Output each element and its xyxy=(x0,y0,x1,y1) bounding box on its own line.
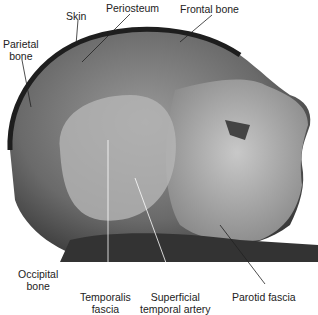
label-occipital-bone: Occipital bone xyxy=(18,268,58,292)
label-skin: Skin xyxy=(66,10,86,22)
label-superficial-temporal-artery: Superficial temporal artery xyxy=(140,291,211,315)
label-temporalis-fascia: Temporalis fascia xyxy=(80,291,131,315)
label-frontal-bone: Frontal bone xyxy=(180,3,239,15)
label-periosteum: Periosteum xyxy=(106,2,159,14)
label-parotid-fascia: Parotid fascia xyxy=(232,291,296,303)
label-parietal-bone: Parietal bone xyxy=(3,38,39,62)
